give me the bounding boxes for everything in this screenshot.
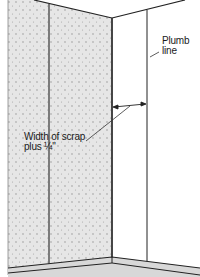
width-of-scrap-label: Width of scrap plus ¼" — [24, 132, 85, 152]
width-label-line2: plus ¼" — [24, 142, 85, 152]
wall-panel-diagram: Plumb line Width of scrap plus ¼" — [0, 0, 200, 277]
plumb-line-label: Plumb line — [162, 36, 189, 56]
plumb-label-line2: line — [162, 46, 189, 56]
